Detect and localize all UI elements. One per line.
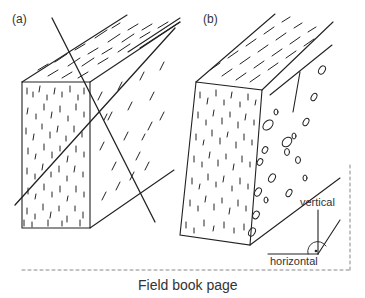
block-a <box>15 15 180 228</box>
lineation-marks-a-side <box>98 62 164 200</box>
horizontal-label: horizontal <box>270 255 318 267</box>
lineation-marks-b-front <box>186 90 256 233</box>
lineation-marks-a-front <box>24 86 84 227</box>
angle-inset <box>268 210 340 254</box>
pebbles-b-side <box>247 65 327 238</box>
diagram-drawing <box>0 0 365 298</box>
caption: Field book page <box>138 277 238 293</box>
vertical-label: vertical <box>300 196 335 208</box>
block-b <box>180 14 340 245</box>
panel-label-b: (b) <box>203 12 218 26</box>
panel-label-a: (a) <box>12 12 27 26</box>
figure: (a) (b) vertical horizontal Field book p… <box>0 0 365 298</box>
